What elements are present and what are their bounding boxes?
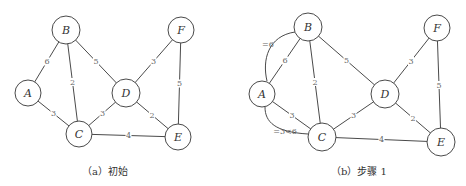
edge-weight-label: 6 — [44, 57, 49, 66]
node-e: E — [165, 124, 191, 150]
edge-weight-label: 3 — [408, 57, 413, 66]
edge-weight-label: 5 — [436, 81, 441, 90]
edge-weight-label: 2 — [149, 111, 154, 120]
edge-weight-label: 5 — [344, 56, 349, 65]
edge-weight-label: 5 — [177, 79, 182, 88]
node-label: D — [121, 87, 131, 100]
edge-weight-label: 2 — [70, 78, 75, 87]
edge-weight-label: 2 — [312, 78, 317, 87]
panel-initial: 632534235ABCDEF — [15, 16, 194, 150]
node-b: B — [52, 16, 80, 44]
edge-weight-label: 4 — [379, 135, 384, 144]
edge-weight-label: 4 — [126, 131, 131, 140]
node-label: C — [318, 131, 327, 144]
node-e: E — [427, 128, 455, 156]
node-label: A — [257, 88, 266, 101]
node-a: A — [249, 81, 275, 107]
node-d: D — [371, 80, 399, 108]
node-label: B — [303, 21, 312, 34]
node-label: B — [61, 24, 70, 37]
node-c: C — [66, 121, 92, 147]
node-d: D — [112, 79, 140, 107]
node-label: F — [176, 24, 185, 37]
edge-weight-label: 3 — [151, 57, 156, 66]
edge-weight-label: 5 — [93, 57, 98, 66]
node-label: F — [432, 22, 441, 35]
node-label: A — [23, 87, 32, 100]
graph-canvas: 632534235ABCDEF 632534235=6=3<6ABCDEF — [0, 0, 466, 186]
node-a: A — [15, 80, 41, 106]
node-c: C — [308, 123, 336, 151]
node-label: E — [436, 136, 445, 149]
node-label: C — [75, 128, 84, 141]
node-label: D — [380, 88, 390, 101]
edge-weight-label: 3 — [289, 111, 294, 120]
panel-step-1: 632534235=6=3<6ABCDEF — [249, 13, 455, 156]
annotation-label: =6 — [262, 40, 274, 49]
edge-weight-label: 3 — [51, 109, 56, 118]
edge-weight-label: 6 — [282, 56, 287, 65]
node-label: E — [173, 131, 182, 144]
caption-initial: （a）初始 — [82, 163, 128, 178]
edge-weight-label: 2 — [410, 114, 415, 123]
edge-weight-label: 3 — [100, 109, 105, 118]
node-b: B — [294, 13, 322, 41]
edge-weight-label: 3 — [351, 111, 356, 120]
node-f: F — [424, 15, 450, 41]
caption-step-1: （b）步骤 1 — [331, 163, 387, 178]
node-f: F — [168, 17, 194, 43]
annotation-label: =3<6 — [273, 127, 297, 136]
